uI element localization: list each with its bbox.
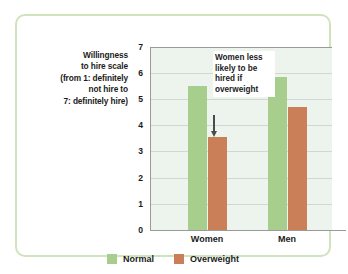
legend-label-normal: Normal (123, 254, 154, 264)
legend-item-normal: Normal (107, 254, 154, 264)
y-axis-label-line-3: (from 1: definitely (23, 73, 128, 84)
bar-men-overweight (288, 107, 307, 230)
x-tick-men: Men (247, 234, 327, 244)
y-tick-1: 1 (129, 199, 143, 209)
y-axis-label-line-5: 7: definitely hire) (23, 96, 128, 107)
y-tick-2: 2 (129, 173, 143, 183)
y-tick-7: 7 (129, 42, 143, 52)
annotation-arrow-line (213, 115, 215, 132)
bar-men-normal (268, 77, 287, 230)
y-tick-3: 3 (129, 146, 143, 156)
y-axis-label-line-1: Willingness (23, 50, 128, 61)
chart-figure: Willingness to hire scale (from 1: defin… (15, 14, 331, 257)
y-tick-5: 5 (129, 94, 143, 104)
bar-women-overweight (208, 137, 227, 230)
legend-item-overweight: Overweight (174, 254, 239, 264)
y-tick-4: 4 (129, 120, 143, 130)
y-axis-label-line-2: to hire scale (23, 61, 128, 72)
x-tick-women: Women (167, 234, 247, 244)
gridline-7 (151, 47, 332, 48)
y-tick-6: 6 (129, 68, 143, 78)
y-tick-0: 0 (129, 225, 143, 235)
annotation-arrow-icon (211, 131, 217, 137)
y-axis-label-line-4: not hire to (23, 84, 128, 95)
bar-women-normal (188, 86, 207, 230)
gridline-5 (151, 99, 332, 100)
annotation-callout: Women less likely to be hired if overwei… (213, 51, 275, 97)
x-axis-line (150, 230, 346, 231)
y-axis-label: Willingness to hire scale (from 1: defin… (23, 50, 128, 107)
legend-label-overweight: Overweight (190, 254, 239, 264)
legend-swatch-normal-icon (107, 254, 117, 264)
chart-legend: Normal Overweight (17, 254, 329, 264)
legend-swatch-overweight-icon (174, 254, 184, 264)
